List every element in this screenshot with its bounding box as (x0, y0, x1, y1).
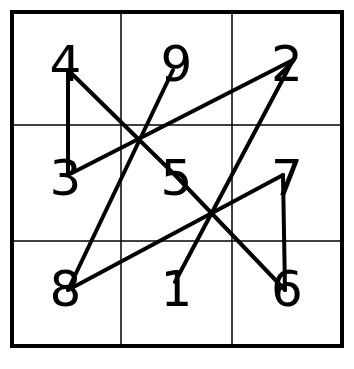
cell-digit-2: 2 (271, 35, 303, 93)
cell-digit-5: 5 (161, 149, 193, 207)
cell-digit-7: 7 (271, 149, 303, 207)
digit-labels: 492357816 (50, 35, 303, 318)
cell-digit-6: 6 (271, 260, 303, 318)
cell-digit-8: 8 (50, 260, 82, 318)
cell-digit-1: 1 (161, 260, 193, 318)
cell-digit-3: 3 (50, 149, 82, 207)
cell-digit-4: 4 (50, 35, 82, 93)
cell-digit-9: 9 (161, 35, 193, 93)
magic-square-diagram: 492357816 (0, 0, 354, 369)
